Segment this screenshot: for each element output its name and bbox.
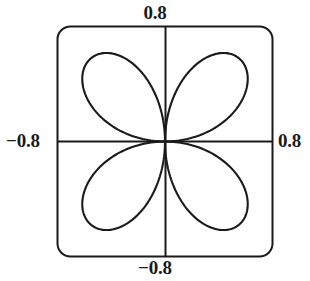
axis-tick-label-right: 0.8 [278, 131, 301, 150]
rose-petal-upper-left [165, 53, 248, 142]
axis-tick-label-top: 0.8 [0, 3, 310, 22]
rose-petal-lower-left [82, 142, 165, 231]
axis-tick-label-bottom: −0.8 [0, 258, 310, 277]
axis-tick-label-left: −0.8 [6, 131, 40, 150]
rose-petal-lower-right [165, 142, 248, 231]
plot-canvas [0, 0, 310, 281]
rose-petal-upper-right [82, 53, 165, 142]
polar-rose-plot: 0.8 −0.8 −0.8 0.8 [0, 0, 310, 281]
